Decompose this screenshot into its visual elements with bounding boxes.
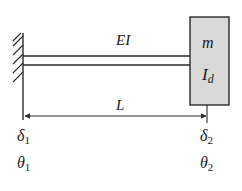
cantilever-diagram: EI m Id L δ1 θ1 δ2 θ2 — [0, 0, 242, 191]
right-displacement-label: δ2 — [200, 127, 213, 146]
beam — [23, 56, 190, 65]
right-rotation-label: θ2 — [200, 154, 213, 173]
tip-mass-block — [190, 17, 229, 105]
left-displacement-label: δ1 — [17, 127, 30, 146]
beam-label: EI — [115, 32, 131, 48]
fixed-support-icon — [13, 33, 23, 120]
mass-label: m — [202, 34, 214, 51]
left-rotation-label: θ1 — [17, 154, 30, 173]
length-label: L — [115, 97, 124, 113]
